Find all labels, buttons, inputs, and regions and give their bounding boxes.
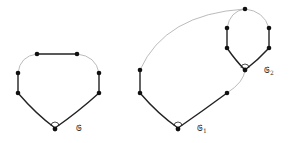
node <box>35 52 40 57</box>
thin-edge <box>18 54 37 73</box>
root-node <box>243 68 248 73</box>
thin-edge <box>245 9 269 28</box>
thin-edge <box>227 9 245 28</box>
thick-edge <box>178 93 227 128</box>
graph-g: 𝔊 <box>16 52 102 133</box>
node <box>138 91 143 96</box>
graph-label-g: 𝔊 <box>76 124 82 133</box>
graph-g2: 𝔊2 <box>225 7 274 76</box>
node <box>225 91 230 96</box>
node <box>75 52 80 57</box>
node <box>243 7 248 12</box>
node <box>225 26 230 31</box>
node <box>97 91 102 96</box>
node <box>267 26 272 31</box>
root-node <box>53 127 58 132</box>
thin-edge <box>227 70 245 93</box>
thick-edge <box>140 93 178 128</box>
node <box>225 46 230 51</box>
node <box>16 71 21 76</box>
thick-edge <box>227 48 245 70</box>
thin-edge <box>140 9 245 70</box>
node <box>267 46 272 51</box>
diagram-canvas: 𝔊 𝔊1 𝔊2 <box>0 0 289 143</box>
node <box>138 68 143 73</box>
root-node <box>176 127 181 132</box>
thick-edge <box>18 93 55 128</box>
thin-edge <box>77 54 99 73</box>
graph-label-g1: 𝔊1 <box>197 124 207 134</box>
node <box>97 71 102 76</box>
thick-edge <box>55 93 99 128</box>
graph-label-g2: 𝔊2 <box>264 66 274 76</box>
node <box>16 91 21 96</box>
